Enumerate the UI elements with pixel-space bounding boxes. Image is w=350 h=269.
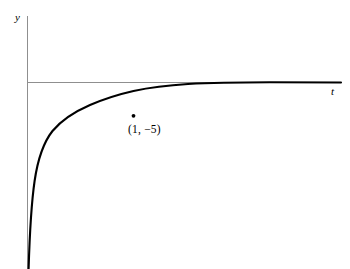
t-axis-label: t bbox=[331, 86, 334, 97]
point-marker bbox=[132, 114, 136, 118]
point-coordinate-label: (1, −5) bbox=[128, 124, 161, 136]
plot-canvas bbox=[0, 0, 350, 269]
y-axis-label: y bbox=[15, 12, 20, 23]
decay-curve bbox=[29, 82, 341, 269]
exponential-decay-figure: y t (1, −5) bbox=[0, 0, 350, 269]
